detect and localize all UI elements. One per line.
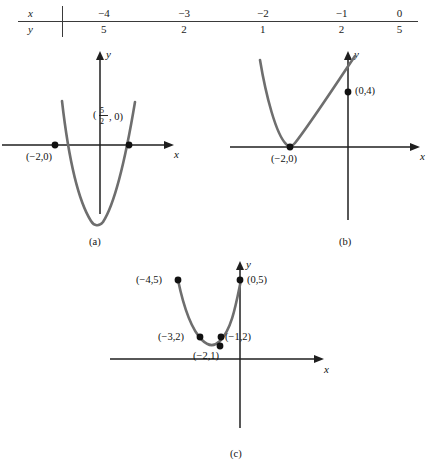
graph-a-caption: (a) xyxy=(89,236,101,248)
graph-c-point-4 xyxy=(218,334,225,341)
graph-a-label-fraction-denominator: 2 xyxy=(100,117,104,126)
graph-c-caption: (c) xyxy=(230,448,242,460)
graph-c-label-4: (−1,2) xyxy=(225,331,252,343)
graph-c-label-3: (−2,1) xyxy=(193,350,220,362)
graph-a-y-axis-label: y xyxy=(105,48,111,60)
figure-page: x −4 −3 −2 −1 0 y 5 2 1 2 5 xyxy=(0,0,436,467)
table-cell-x-3: −1 xyxy=(302,6,381,22)
graph-c-x-axis-label: x xyxy=(323,363,329,375)
table-row-y: y 5 2 1 2 5 xyxy=(18,22,418,38)
graph-b-caption: (b) xyxy=(339,236,352,248)
graph-b-label-vertex: (−2,0) xyxy=(271,153,298,165)
graph-a-y-axis xyxy=(96,51,104,214)
graph-b-x-axis-label: x xyxy=(419,150,425,162)
table-cell-x-2: −2 xyxy=(223,6,302,22)
graph-c-label-5: (0,5) xyxy=(247,274,268,286)
table-cell-x-1: −3 xyxy=(145,6,224,22)
graph-c-y-axis-label: y xyxy=(245,258,251,270)
table-cell-x-0: −4 xyxy=(63,6,145,22)
graph-b-point-y-intercept xyxy=(345,89,352,96)
graph-c-label-2: (−3,2) xyxy=(158,331,185,343)
graph-c-point-2 xyxy=(197,334,204,341)
graph-a-point-root-right xyxy=(126,142,133,149)
graph-a-x-axis xyxy=(2,141,174,149)
graph-a-label-root-right: ( 5 2 , 0) xyxy=(93,106,124,126)
table-cell-y-1: 2 xyxy=(145,22,224,38)
graph-b-y-axis xyxy=(344,51,352,220)
graph-b-x-axis xyxy=(230,143,420,151)
graph-a-label-paren-close: , 0) xyxy=(109,111,124,123)
table-cell-y-2: 1 xyxy=(223,22,302,38)
graph-c-point-5 xyxy=(237,277,244,284)
data-table: x −4 −3 −2 −1 0 y 5 2 1 2 5 xyxy=(18,6,418,37)
table-cell-y-4: 5 xyxy=(381,22,418,38)
graph-a-label-root-left: (−2,0) xyxy=(26,151,53,163)
graph-c: x y (−4,5) (−3,2) (−2,1) (−1,2) (0,5) (c… xyxy=(108,252,336,467)
graph-c-label-1: (−4,5) xyxy=(136,274,163,286)
table-row-x-label: x xyxy=(18,6,63,22)
table-cell-y-0: 5 xyxy=(63,22,145,38)
graph-a-label-fraction-numerator: 5 xyxy=(100,106,104,115)
graph-c-point-1 xyxy=(175,277,182,284)
graph-b-point-vertex xyxy=(287,144,294,151)
table-row-y-label: y xyxy=(18,22,63,38)
graph-b: x y (−2,0) (0,4) (b) xyxy=(218,44,436,259)
graph-a-parabola xyxy=(62,101,135,225)
table-cell-x-4: 0 xyxy=(381,6,418,22)
table-row-x: x −4 −3 −2 −1 0 xyxy=(18,6,418,22)
graph-a: x y (−2,0) ( 5 2 , 0) (a) xyxy=(0,44,220,259)
graph-c-point-3 xyxy=(217,343,224,350)
table-cell-y-3: 2 xyxy=(302,22,381,38)
graph-a-point-root-left xyxy=(52,142,59,149)
graph-a-label-paren-open: ( xyxy=(93,109,97,121)
graph-b-label-y-intercept: (0,4) xyxy=(355,85,376,97)
graph-a-x-axis-label: x xyxy=(173,148,179,160)
graph-b-parabola xyxy=(260,56,355,146)
